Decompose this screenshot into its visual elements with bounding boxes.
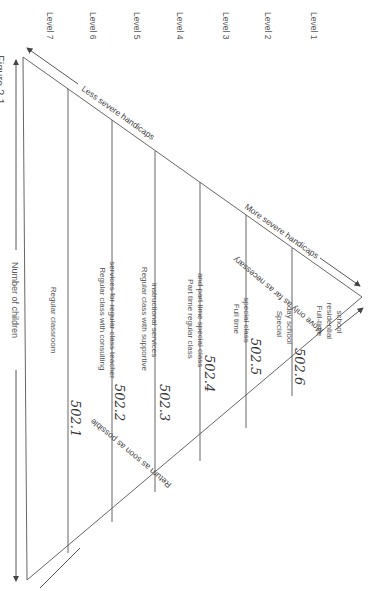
level-6-cell: Regular class with consulting services f…: [68, 261, 117, 437]
figure-caption: Figure 2.1: [0, 55, 6, 105]
level-5-cell: Regular class with supportive instructio…: [112, 267, 159, 421]
level-7-label: Level 7: [45, 12, 55, 40]
svg-text:Special day school: Special day school: [275, 306, 294, 344]
level-1-code: 502.6: [292, 348, 307, 385]
level-3-cell: Full time special class 502.4: [202, 297, 251, 392]
level-6-code: 502.1: [68, 400, 83, 437]
svg-text:Full-time residential: Full-time residential school: [315, 303, 344, 342]
level-labels: Level 1 Level 2 Level 3 Level 4 Level 5 …: [45, 12, 319, 40]
svg-text:Part time regular class: Part time regular class and part time sp…: [186, 273, 205, 367]
level-4-code: 502.3: [157, 384, 172, 421]
more-severe-label: More severe handicaps: [243, 201, 321, 260]
level-5-label: Level 5: [132, 12, 142, 40]
service-cascade-diagram: Figure 2.1 Number of children Level 1 Le…: [0, 0, 372, 591]
level-4-cell: Part time regular class and part time sp…: [157, 273, 205, 421]
level-6-label: Level 6: [88, 12, 98, 40]
level-1-label: Level 1: [309, 12, 319, 40]
level-2-label: Level 2: [263, 12, 273, 40]
level-5-code: 502.2: [112, 384, 127, 421]
less-severe-label: Less severe handicaps: [80, 83, 157, 141]
level-2-cell: Special day school 502.5: [248, 306, 294, 375]
level-4-label: Level 4: [175, 12, 185, 40]
axis-label: Number of children: [10, 262, 20, 338]
number-of-children-axis: Number of children: [10, 60, 20, 581]
level-2-code: 502.5: [248, 338, 263, 375]
level-7-cell: Regular classroom: [49, 287, 58, 354]
return-label: Return as soon as possible: [88, 416, 173, 490]
svg-text:Regular classroom: Regular classroom: [49, 287, 58, 354]
level-3-label: Level 3: [221, 12, 231, 40]
svg-text:Regular class with supportive: Regular class with supportive instructio…: [140, 267, 159, 373]
svg-text:Full time special class: Full time special class: [232, 297, 251, 342]
svg-text:Regular class with consulting: Regular class with consulting services f…: [98, 261, 117, 379]
